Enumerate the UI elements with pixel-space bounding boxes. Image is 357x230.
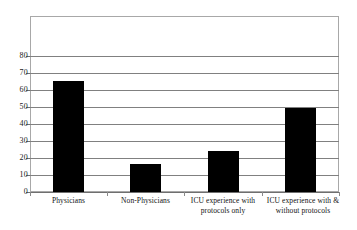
ytick-label-10: 10 — [4, 171, 28, 179]
ytick-label-30: 30 — [4, 137, 28, 145]
category-label-line: Non-Physicians — [107, 196, 184, 206]
bar-physicians — [53, 81, 84, 192]
ytick-label-20: 20 — [4, 154, 28, 162]
category-label-line: protocols only — [183, 206, 263, 216]
bar-chart: 80 70 60 50 40 30 20 10 0 Physicians Non… — [0, 0, 357, 230]
ytick-label-50: 50 — [4, 103, 28, 111]
bar-non-physicians — [130, 164, 161, 192]
category-label-physicians: Physicians — [30, 196, 107, 206]
category-label-line: Physicians — [30, 196, 107, 206]
ytick-label-60: 60 — [4, 86, 28, 94]
gridline-80 — [30, 56, 339, 57]
bar-icu-protocols-only — [208, 151, 239, 192]
ytick-label-70: 70 — [4, 69, 28, 77]
category-label-icu-with-without-protocols: ICU experience with & without protocols — [261, 196, 345, 215]
gridline-70 — [30, 73, 339, 74]
ytick-label-40: 40 — [4, 120, 28, 128]
category-label-icu-protocols-only: ICU experience with protocols only — [183, 196, 263, 215]
category-label-line: ICU experience with & — [261, 196, 345, 206]
category-label-non-physicians: Non-Physicians — [107, 196, 184, 206]
x-axis-line — [30, 192, 340, 193]
ytick-label-80: 80 — [4, 52, 28, 60]
category-label-line: without protocols — [261, 206, 345, 216]
category-label-line: ICU experience with — [183, 196, 263, 206]
ytick-label-0: 0 — [4, 188, 28, 196]
bar-icu-with-without-protocols — [285, 108, 316, 192]
